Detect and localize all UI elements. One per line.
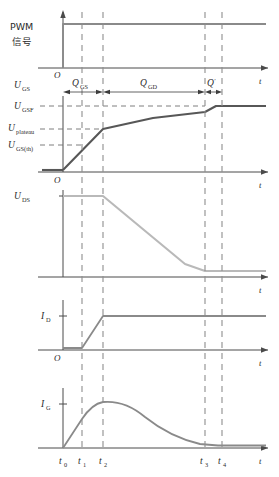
t2-marker-label: t 2 (99, 456, 107, 468)
id-axis-label: I D (40, 311, 51, 323)
t0-label-sub: 0 (64, 461, 67, 468)
ugs-time-label: t (259, 180, 262, 190)
qgs-label-main: Q (72, 78, 79, 88)
ig-label-main: I (40, 399, 45, 409)
qprime-arrow-left-icon (205, 90, 211, 95)
qgd-label-sub: GD (148, 83, 158, 90)
ugsf-label-main: U (14, 101, 22, 111)
ugs-waveform (63, 106, 266, 170)
t2-label-main: t (99, 456, 102, 466)
uds-axis-label: U DS (14, 191, 31, 203)
uds-axis-arrow-icon (261, 274, 268, 279)
panel-pwm (38, 10, 268, 71)
pwm-label-line1: PWM (10, 21, 33, 32)
id-label-sub: D (46, 316, 51, 323)
t1-label-main: t (78, 456, 81, 466)
mosfet-gate-charge-figure: PWM 信号 O t U GS U GSF U plateau U GS(th)… (0, 0, 279, 477)
t4-marker-label: t 4 (218, 456, 227, 468)
qgs-arrow-left-icon (63, 90, 70, 95)
uds-time-label: t (259, 285, 262, 295)
id-label-main: I (40, 311, 45, 321)
t4-label-main: t (218, 456, 221, 466)
ugsth-label-main: U (8, 140, 16, 150)
t3-marker-label: t 3 (200, 456, 208, 468)
ugsth-level-label: U GS(th) (8, 140, 33, 153)
pwm-value-arrow-icon (60, 10, 65, 18)
ugs-origin-label: O (54, 175, 61, 185)
uds-waveform (63, 196, 266, 271)
pwm-axis-arrow-icon (261, 65, 268, 70)
qprime-region-label: Q ′ (207, 77, 216, 88)
t3-label-main: t (200, 456, 203, 466)
ugsf-label-sub: GSF (22, 106, 34, 113)
qgs-arrow-right-icon (96, 90, 103, 95)
time-marker-lines (82, 12, 222, 448)
t2-label-sub: 2 (104, 461, 107, 468)
ig-axis-label: I G (40, 399, 51, 411)
ugsth-label-sub: GS(th) (16, 145, 33, 153)
uplateau-label-main: U (8, 123, 16, 133)
t4-label-sub: 4 (223, 461, 227, 468)
ugs-label-sub: GS (22, 85, 31, 92)
panel-ugs (38, 96, 268, 175)
id-axis-arrow-icon (261, 347, 268, 352)
uds-label-sub: DS (22, 196, 31, 203)
pwm-origin-label: O (54, 70, 61, 80)
id-origin-label: O (54, 353, 61, 363)
ig-label-sub: G (46, 404, 51, 411)
qgs-label-sub: GS (80, 83, 89, 90)
qgs-region-label: Q GS (72, 78, 89, 90)
pwm-time-label: t (259, 76, 262, 86)
t0-label-main: t (59, 456, 62, 466)
ig-time-label: t (259, 456, 262, 466)
qgd-region-label: Q GD (140, 78, 158, 90)
id-time-label: t (259, 358, 262, 368)
charge-region-arrows (63, 90, 222, 95)
qgd-arrow-left-icon (103, 90, 110, 95)
uplateau-label-sub: plateau (16, 128, 35, 135)
qprime-label-sub: ′ (214, 77, 216, 84)
qgd-arrow-right-icon (198, 90, 205, 95)
ugs-label-main: U (14, 80, 22, 90)
id-waveform (63, 316, 266, 348)
ugs-axis-arrow-icon (261, 169, 268, 174)
panel-id (38, 300, 268, 353)
ig-waveform (63, 402, 266, 448)
pwm-waveform (63, 24, 266, 68)
panel-ig (38, 388, 268, 451)
waveform-diagram: PWM 信号 O t U GS U GSF U plateau U GS(th)… (0, 0, 279, 477)
t1-label-sub: 1 (83, 461, 86, 468)
ugsf-level-label: U GSF (14, 101, 34, 113)
ugs-axis-label: U GS (14, 80, 31, 92)
t1-marker-label: t 1 (78, 456, 86, 468)
qprime-arrow-right-icon (216, 90, 222, 95)
panel-uds (38, 190, 268, 280)
qgd-label-main: Q (140, 78, 147, 88)
uplateau-level-label: U plateau (8, 123, 35, 135)
pwm-label-line2: 信号 (12, 36, 32, 47)
t3-label-sub: 3 (205, 461, 208, 468)
uds-label-main: U (14, 191, 22, 201)
t0-marker-label: t 0 (59, 456, 67, 468)
qprime-label-main: Q (207, 78, 214, 88)
